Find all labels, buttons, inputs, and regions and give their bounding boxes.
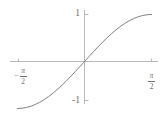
fraction-neg-pi-over-2: − π 2 (14, 67, 27, 85)
fraction-stack: π 2 (148, 72, 155, 90)
fraction-stack: π 2 (20, 67, 27, 85)
fraction-minus-sign: − (14, 72, 19, 80)
y-tick-label-one: 1 (70, 9, 80, 19)
fraction-pi-over-2: π 2 (148, 72, 155, 90)
plot-canvas (0, 0, 165, 113)
fraction-numerator: π (20, 67, 26, 75)
y-tick-label-negative-one: -1 (65, 96, 80, 106)
fraction-numerator: π (149, 72, 155, 80)
sine-function-plot: 1 -1 − π 2 π 2 (0, 0, 165, 113)
fraction-denominator: 2 (20, 78, 26, 86)
x-tick-label-pi-over-2: π 2 (148, 65, 155, 90)
fraction-denominator: 2 (149, 83, 155, 91)
x-tick-label-neg-pi-over-2: − π 2 (14, 65, 27, 85)
